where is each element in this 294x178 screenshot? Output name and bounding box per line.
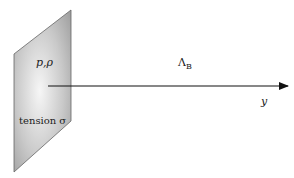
wave-label: ΛB [177,56,192,71]
y-axis-label: y [260,95,268,108]
wave-label-subscript: B [186,62,192,71]
plate-density-label: p,ρ [36,56,54,69]
diagram-canvas: p,ρ tension σ ΛB y [0,0,294,178]
membrane-plate [14,10,71,172]
plate-tension-label: tension σ [19,115,66,126]
